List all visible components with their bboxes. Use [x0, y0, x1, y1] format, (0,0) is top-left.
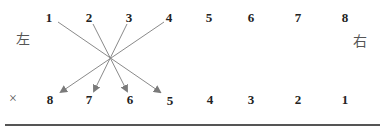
top-number: 8 [342, 10, 349, 26]
top-number: 4 [166, 10, 173, 26]
bottom-divider [5, 124, 380, 126]
top-number: 3 [126, 10, 133, 26]
bottom-number: 8 [47, 92, 54, 108]
bottom-number: 4 [207, 92, 214, 108]
top-number: 7 [295, 10, 302, 26]
right-label: 右 [353, 30, 367, 50]
top-number: 6 [248, 10, 255, 26]
top-number: 5 [206, 10, 213, 26]
cross-mark: × [9, 91, 17, 107]
bottom-number: 3 [248, 92, 255, 108]
bottom-number: 6 [127, 92, 134, 108]
crossing-arrows [0, 0, 385, 130]
bottom-number: 1 [342, 92, 349, 108]
top-number: 1 [46, 10, 53, 26]
bottom-number: 5 [167, 93, 174, 109]
arrow-1-to-5 [58, 22, 160, 92]
top-number: 2 [86, 10, 93, 26]
arrow-4-to-8 [61, 22, 164, 92]
bottom-number: 2 [295, 92, 302, 108]
left-label: 左 [16, 28, 30, 48]
bottom-number: 7 [86, 92, 93, 108]
